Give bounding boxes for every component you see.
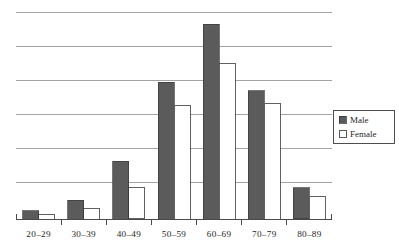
bar-male-20–29 xyxy=(23,211,39,219)
x-tick-label-80–89: 80–89 xyxy=(297,229,322,239)
legend-label-male: Male xyxy=(350,115,369,125)
bar-male-60–69 xyxy=(203,24,219,219)
x-tick-label-30–39: 30–39 xyxy=(71,229,96,239)
bar-male-50–59 xyxy=(158,82,174,219)
bar-male-30–39 xyxy=(68,200,84,219)
legend-label-female: Female xyxy=(350,129,377,139)
bar-female-80–89 xyxy=(309,196,325,219)
x-tick-label-50–59: 50–59 xyxy=(162,229,187,239)
bar-female-70–79 xyxy=(264,103,280,219)
bar-female-40–49 xyxy=(129,188,145,219)
legend[interactable]: Male Female xyxy=(334,111,395,144)
x-tick-label-20–29: 20–29 xyxy=(26,229,51,239)
x-tick-label-40–49: 40–49 xyxy=(117,229,142,239)
bar-male-80–89 xyxy=(293,188,309,219)
legend-swatch-male-filled-square-icon xyxy=(339,116,346,123)
bar-female-30–39 xyxy=(84,209,100,219)
bar-female-20–29 xyxy=(39,215,55,219)
chart-canvas: 20–2930–3940–4950–5960–6970–7980–89 Male… xyxy=(0,0,399,249)
bar-female-60–69 xyxy=(219,64,235,219)
x-tick-label-70–79: 70–79 xyxy=(252,229,277,239)
legend-swatch-female-empty-square-icon xyxy=(339,130,346,137)
bar-male-40–49 xyxy=(113,161,129,219)
bar-female-50–59 xyxy=(174,105,190,219)
x-tick-label-60–69: 60–69 xyxy=(207,229,232,239)
bar-chart-figure: 20–2930–3940–4950–5960–6970–7980–89 Male… xyxy=(0,0,399,249)
bar-male-70–79 xyxy=(248,91,264,219)
